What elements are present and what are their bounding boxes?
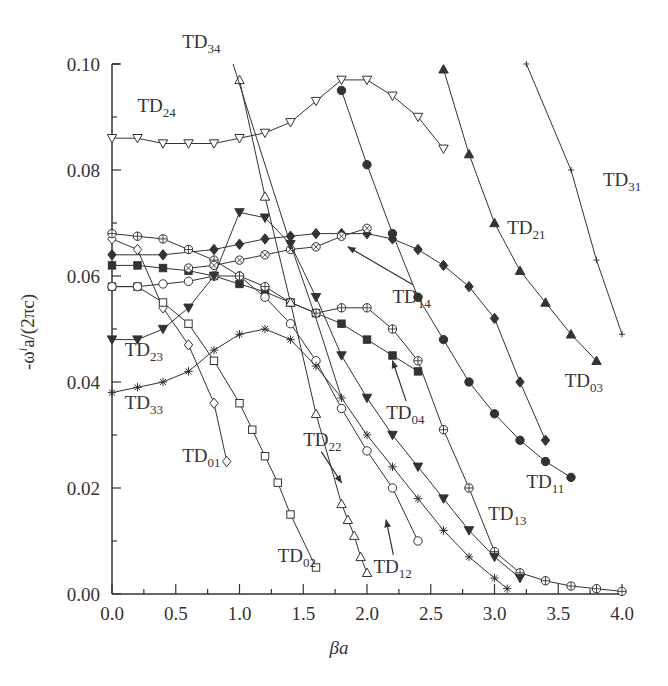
- y-tick-label: 0.06: [67, 266, 100, 287]
- series-td23: [107, 209, 524, 583]
- arrow-td12: [386, 520, 393, 555]
- x-tick-label: 3.0: [483, 603, 507, 624]
- series-td33: [108, 325, 512, 593]
- chart: 0.00.51.01.52.02.53.03.54.00.000.020.040…: [0, 0, 668, 686]
- label-td11: TD11: [526, 471, 564, 496]
- series-td11: [337, 86, 575, 481]
- label-td24: TD24: [138, 95, 177, 120]
- label-td33: TD33: [125, 392, 163, 417]
- label-td02: TD02: [278, 545, 316, 570]
- series-td34: [233, 64, 341, 398]
- series-lines: [107, 61, 626, 596]
- label-td14: TD14: [393, 286, 432, 311]
- plot-area: 0.00.51.01.52.02.53.03.54.00.000.020.040…: [0, 0, 668, 686]
- x-tick-label: 0.5: [164, 603, 188, 624]
- label-td31: TD31: [603, 169, 641, 194]
- x-tick-label: 1.5: [291, 603, 315, 624]
- series-td22: [235, 75, 372, 576]
- x-tick-label: 1.0: [228, 603, 252, 624]
- x-axis-label: βa: [329, 637, 349, 658]
- label-td04: TD04: [386, 402, 425, 427]
- label-td03: TD03: [565, 370, 603, 395]
- series-labels: TD34TD24TD31TD21TD14TD23TD33TD04TD03TD01…: [125, 31, 641, 581]
- arrow-td22: [321, 452, 341, 483]
- x-tick-label: 2.5: [419, 603, 443, 624]
- series-td21: [439, 65, 601, 365]
- series-td31: [523, 61, 625, 337]
- x-tick-label: 2.0: [355, 603, 379, 624]
- label-td12: TD12: [373, 556, 411, 581]
- x-tick-label: 3.5: [546, 603, 570, 624]
- label-td21: TD21: [507, 217, 545, 242]
- x-tick-label: 4.0: [610, 603, 634, 624]
- arrow-td04: [393, 361, 407, 401]
- y-axis-label: -ωia/(2πc): [16, 294, 39, 370]
- label-td34: TD34: [182, 31, 221, 56]
- y-tick-label: 0.04: [67, 372, 101, 393]
- label-td23: TD23: [125, 339, 163, 364]
- label-td22: TD22: [303, 429, 341, 454]
- x-tick-label: 0.0: [100, 603, 124, 624]
- label-td01: TD01: [182, 445, 220, 470]
- y-tick-label: 0.08: [67, 160, 100, 181]
- series-td03: [108, 228, 550, 445]
- label-td13: TD13: [488, 503, 526, 528]
- y-tick-label: 0.00: [67, 584, 100, 605]
- y-tick-label: 0.10: [67, 54, 100, 75]
- y-tick-label: 0.02: [67, 478, 100, 499]
- arrow-td14: [348, 247, 413, 285]
